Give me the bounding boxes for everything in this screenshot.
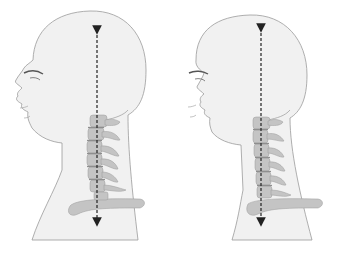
left-figure <box>15 11 146 240</box>
figure <box>0 0 350 256</box>
right-figure <box>188 15 323 240</box>
spine-comparison-illustration <box>0 0 350 256</box>
